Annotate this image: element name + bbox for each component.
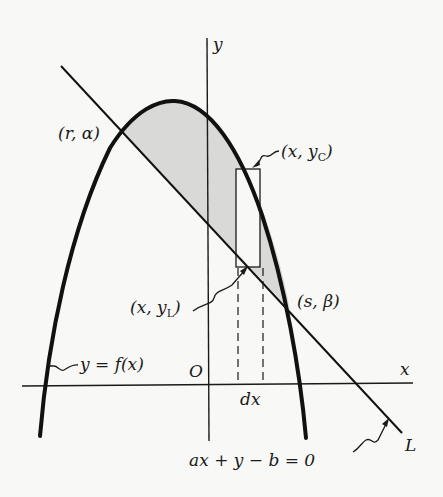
origin-label: O bbox=[189, 361, 203, 381]
leader-line-point bbox=[193, 270, 245, 311]
line-point-label: (x, yL) bbox=[130, 297, 181, 320]
y-axis bbox=[207, 38, 209, 441]
left-intersection-label: (r, α) bbox=[58, 123, 100, 143]
right-intersection-label: (s, β) bbox=[297, 291, 340, 311]
diagram-canvas: y x O (r, α) (s, β) (x, yC) (x, yL) y = … bbox=[0, 0, 443, 497]
x-axis bbox=[22, 383, 413, 386]
leader-line-label bbox=[353, 422, 387, 452]
arrow-icon bbox=[382, 418, 389, 427]
x-axis-label: x bbox=[400, 359, 410, 379]
dx-label: dx bbox=[240, 389, 261, 409]
line-L bbox=[61, 66, 402, 433]
leader-curve-label bbox=[49, 365, 78, 371]
curve-point-label: (x, yC) bbox=[281, 141, 333, 164]
line-name-label: L bbox=[404, 435, 416, 455]
arrow-icon bbox=[252, 160, 260, 168]
y-axis-label: y bbox=[212, 34, 223, 54]
shaded-area-region bbox=[122, 101, 290, 310]
curve-equation-label: y = f(x) bbox=[79, 354, 144, 374]
line-equation-label: ax + y − b = 0 bbox=[189, 450, 315, 470]
